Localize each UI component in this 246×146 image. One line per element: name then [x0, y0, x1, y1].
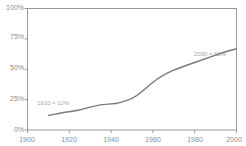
plot-frame	[28, 9, 237, 131]
data-line-series-percent	[48, 49, 236, 116]
plot-area	[0, 0, 246, 146]
line-chart: 100% 75% 50% 25% 0% 1900 1920 1940 1960 …	[0, 0, 246, 146]
